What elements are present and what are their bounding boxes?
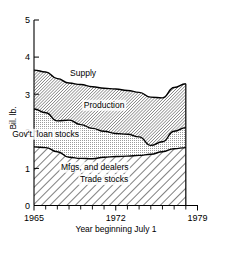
y-tick-label: 1 <box>25 164 30 174</box>
annotation: Production <box>82 100 126 111</box>
area-chart: 543210 196519721979 Bil. lb. Year beginn… <box>0 0 225 265</box>
annotation-text: Gov't. loan stocks <box>12 129 79 139</box>
y-tick-label: 3 <box>25 90 30 100</box>
x-tick-label: 1972 <box>106 213 126 223</box>
y-axis-tick-labels: 543210 <box>25 15 30 211</box>
annotation: Mfgs, and dealers <box>59 162 130 173</box>
annotation-text: Production <box>84 100 125 110</box>
x-tick-label: 1965 <box>24 213 44 223</box>
chart-page: 543210 196519721979 Bil. lb. Year beginn… <box>0 0 225 265</box>
annotation: Gov't. loan stocks <box>11 129 81 140</box>
annotation: Supply <box>69 68 99 79</box>
y-tick-label: 5 <box>25 15 30 25</box>
annotation-text: Mfgs, and dealers <box>61 162 129 172</box>
y-tick-label: 4 <box>25 52 30 62</box>
x-tick-label: 1979 <box>187 213 207 223</box>
y-tick-label: 0 <box>25 201 30 211</box>
annotation: Trade stocks <box>78 174 129 185</box>
y-axis-title: Bil. lb. <box>8 106 18 129</box>
x-axis-title: Year beginning July 1 <box>76 224 157 234</box>
x-axis-ticks <box>34 206 198 211</box>
annotation-text: Trade stocks <box>80 174 128 184</box>
annotation-text: Supply <box>70 68 97 78</box>
x-axis-tick-labels: 196519721979 <box>24 213 208 223</box>
